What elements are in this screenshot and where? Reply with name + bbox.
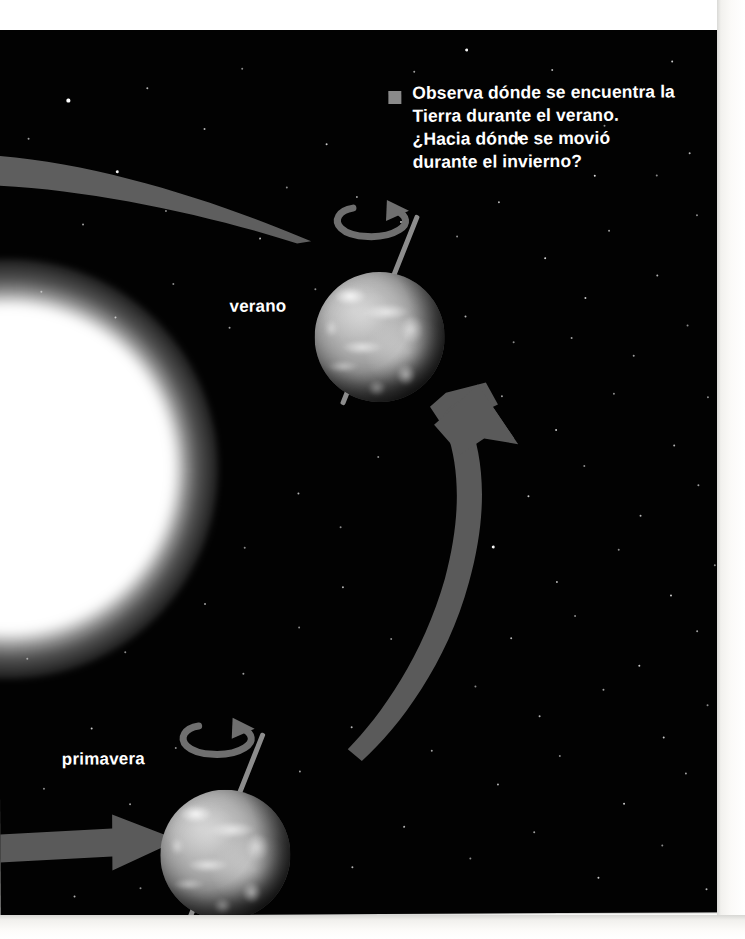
callout-line-4: durante el invierno? [413,149,688,173]
illustration-page: Observa dónde se encuentra la Tierra dur… [0,0,745,939]
question-callout-text: Observa dónde se encuentra la Tierra dur… [412,80,687,173]
paper-margin-right [717,0,745,939]
space-illustration-plate: Observa dónde se encuentra la Tierra dur… [0,25,725,916]
callout-line-2: Tierra durante el verano. [412,103,687,127]
callout-line-1: Observa dónde se encuentra la [412,80,687,104]
question-callout: Observa dónde se encuentra la Tierra dur… [388,80,688,82]
label-verano: verano [229,296,286,316]
callout-line-3: ¿Hacia dónde se movió [413,126,688,150]
text-layer: Observa dónde se encuentra la Tierra dur… [0,25,725,916]
paper-margin-bottom [0,915,745,939]
label-primavera: primavera [62,749,145,769]
paper-margin-top [0,0,745,30]
square-bullet-icon [388,91,401,104]
